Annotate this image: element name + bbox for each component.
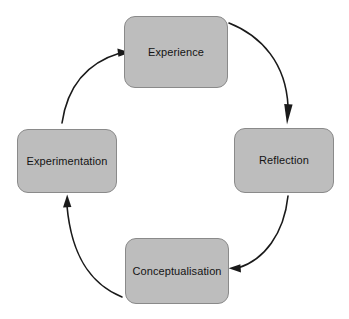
arc-path-experimentation-experience bbox=[62, 53, 120, 123]
arrow-experience-to-reflection bbox=[229, 23, 293, 125]
arrow-conceptualisation-to-experimentation bbox=[63, 195, 122, 298]
arrowhead-into-reflection bbox=[284, 104, 292, 125]
node-reflection[interactable]: Reflection bbox=[234, 128, 334, 193]
arrowhead-into-experimentation bbox=[63, 195, 71, 208]
node-experimentation-label: Experimentation bbox=[27, 155, 108, 168]
node-conceptualisation-label: Conceptualisation bbox=[132, 265, 221, 278]
arrowhead-into-conceptualisation bbox=[229, 264, 241, 272]
node-experience[interactable]: Experience bbox=[124, 16, 228, 88]
arrow-experimentation-to-experience bbox=[62, 49, 130, 124]
experiential-learning-cycle-diagram: Experience Reflection Conceptualisation … bbox=[0, 0, 349, 319]
node-conceptualisation[interactable]: Conceptualisation bbox=[125, 238, 229, 304]
arc-path-experience-reflection bbox=[229, 23, 288, 106]
node-experience-label: Experience bbox=[148, 46, 204, 59]
arc-path-conceptualisation-experimentation bbox=[67, 206, 122, 297]
node-experimentation[interactable]: Experimentation bbox=[17, 129, 117, 193]
node-reflection-label: Reflection bbox=[259, 154, 309, 167]
arrow-reflection-to-conceptualisation bbox=[229, 196, 288, 273]
arc-path-reflection-conceptualisation bbox=[238, 196, 288, 268]
